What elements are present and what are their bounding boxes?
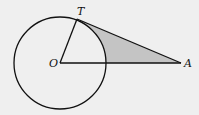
- radius-OT: [60, 19, 77, 63]
- geometry-figure: T O A: [0, 0, 199, 115]
- label-O: O: [49, 57, 58, 70]
- diagram-canvas: T O A: [0, 0, 199, 115]
- label-A: A: [183, 57, 192, 70]
- label-T: T: [77, 5, 86, 18]
